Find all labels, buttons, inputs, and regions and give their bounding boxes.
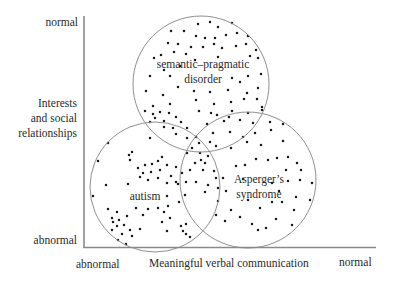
data-point	[180, 121, 183, 124]
data-point	[243, 98, 246, 101]
data-point	[166, 230, 169, 233]
data-point	[154, 117, 157, 120]
data-point	[189, 236, 192, 239]
data-point	[214, 37, 217, 40]
data-point	[170, 175, 173, 178]
data-points	[92, 21, 314, 246]
data-point	[254, 132, 257, 135]
data-point	[299, 179, 302, 182]
data-point	[295, 196, 298, 199]
data-point	[252, 122, 255, 125]
region-label-aspergers-line-2: syndrome	[226, 187, 292, 202]
data-point	[215, 214, 218, 217]
data-point	[111, 217, 114, 220]
data-point	[166, 164, 169, 167]
data-point	[270, 129, 273, 132]
data-point	[126, 215, 129, 218]
data-point	[167, 205, 170, 208]
y-axis-bottom-label: abnormal	[34, 233, 77, 248]
x-axis-right-label: normal	[339, 255, 372, 270]
data-point	[147, 179, 150, 182]
data-point	[235, 165, 238, 168]
data-point	[157, 160, 160, 163]
data-point	[163, 120, 166, 123]
data-point	[239, 119, 242, 122]
data-point	[185, 53, 188, 56]
data-point	[152, 113, 155, 116]
data-point	[175, 133, 178, 136]
data-point	[137, 167, 140, 170]
data-point	[193, 90, 196, 93]
data-point	[195, 35, 198, 38]
x-axis-left-label: abnormal	[76, 257, 119, 272]
data-point	[276, 157, 279, 160]
data-point	[230, 101, 233, 104]
data-point	[144, 110, 147, 113]
y-axis-title: Interests and social relationships	[18, 96, 77, 141]
data-point	[111, 229, 114, 232]
data-point	[97, 160, 100, 163]
data-point	[198, 142, 201, 145]
data-point	[257, 57, 260, 60]
data-point	[168, 112, 171, 115]
data-point	[204, 162, 207, 165]
data-point	[231, 110, 234, 113]
data-point	[157, 207, 160, 210]
data-point	[161, 221, 164, 224]
data-point	[157, 177, 160, 180]
x-axis-title: Meaningful verbal communication	[149, 256, 309, 271]
data-point	[149, 137, 152, 140]
data-point	[207, 155, 210, 158]
data-point	[186, 137, 189, 140]
data-point	[202, 46, 205, 49]
data-point	[181, 172, 184, 175]
data-point	[186, 127, 189, 130]
data-point	[185, 181, 188, 184]
data-point	[184, 194, 187, 197]
data-point	[225, 34, 228, 37]
region-label-spd-line-2: disorder	[150, 72, 256, 87]
data-point	[282, 140, 285, 143]
data-point	[175, 181, 178, 184]
data-point	[223, 120, 226, 123]
data-point	[139, 176, 142, 179]
data-point	[151, 163, 154, 166]
data-point	[236, 32, 239, 35]
data-point	[163, 126, 166, 129]
data-point	[175, 116, 178, 119]
data-point	[142, 214, 145, 217]
data-point	[202, 169, 205, 172]
data-point	[123, 224, 126, 227]
data-point	[246, 141, 249, 144]
data-point	[275, 218, 278, 221]
data-point	[245, 43, 248, 46]
data-point	[118, 219, 121, 222]
data-point	[261, 109, 264, 112]
data-point	[145, 90, 148, 93]
data-point	[121, 233, 124, 236]
data-point	[227, 89, 230, 92]
data-point	[200, 159, 203, 162]
data-point	[311, 182, 314, 185]
data-point	[185, 233, 188, 236]
data-point	[150, 171, 153, 174]
data-point	[216, 114, 219, 117]
data-point	[147, 208, 150, 211]
data-point	[105, 184, 108, 187]
data-point	[265, 227, 268, 230]
data-point	[260, 73, 263, 76]
data-point	[163, 211, 166, 214]
data-point	[282, 123, 285, 126]
data-point	[169, 103, 172, 106]
data-point	[255, 49, 258, 52]
data-point	[116, 211, 119, 214]
data-point	[235, 45, 238, 48]
data-point	[296, 162, 299, 165]
data-point	[112, 221, 115, 224]
data-point	[180, 225, 183, 228]
data-point	[127, 183, 130, 186]
data-point	[213, 43, 216, 46]
data-point	[239, 216, 242, 219]
data-point	[212, 132, 215, 135]
data-point	[172, 127, 175, 130]
